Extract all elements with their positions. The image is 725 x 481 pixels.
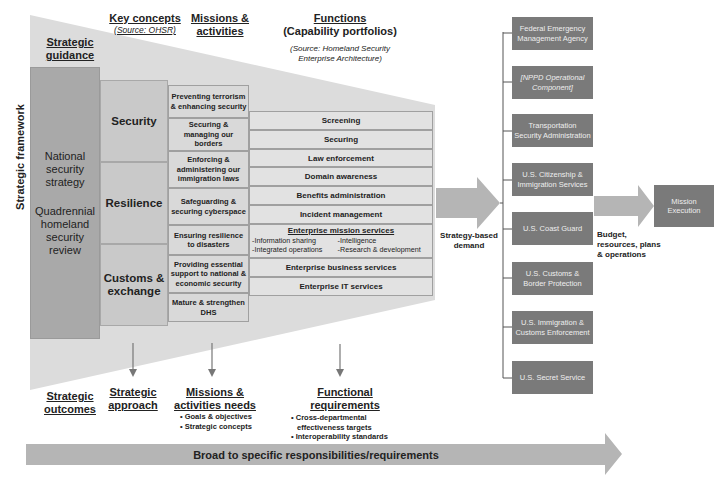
mission-item: Enforcing & administering our immigratio… [168,151,249,188]
mission-item: Ensuring resilience to disasters [168,225,249,255]
missions-needs-bullets: • Goals & objectives • Strategic concept… [180,412,270,431]
strategic-framework-label: Strategic framework [14,102,28,212]
mission-execution-box: Mission Execution [654,185,714,227]
agency-box: [NPPD Operational Component] [512,66,593,99]
key-concept-customs: Customs & exchange [100,244,168,326]
enterprise-it-services: Enterprise IT services [249,277,433,296]
function-item: Law enforcement [249,149,433,167]
missions-activities-header: Missions & activities [190,12,250,38]
agency-box: U.S. Secret Service [512,361,593,394]
mission-item: Securing & managing our borders [168,118,249,151]
quadrennial-review: Quadrennial homeland security review [31,205,99,257]
enterprise-business-services: Enterprise business services [249,258,433,277]
functions-source: (Source: Homeland Security Enterprise Ar… [285,44,395,64]
strategic-outcomes-label: Strategic outcomes [44,390,96,416]
budget-label: Budget, resources, plans & operations [597,230,667,260]
function-item: Incident management [249,205,433,224]
ems-item: -Information sharing [252,236,334,245]
function-item: Domain awareness [249,167,433,186]
functions-header: Functions [290,12,390,25]
mission-item: Preventing terrorism & enhancing securit… [168,85,249,118]
mission-item: Safeguarding & securing cyberspace [168,188,249,225]
ems-item: -Intelligence [338,236,432,245]
function-item: Securing [249,130,433,149]
national-security-strategy: National security strategy [31,150,99,189]
mission-item: Providing essential support to national … [168,255,249,293]
function-item: Screening [249,111,433,130]
budget-arrow [594,185,654,227]
ems-item: -Research & development [338,245,432,254]
agency-box: U.S. Citizenship & Immigration Services [512,163,593,196]
missions-needs-label: Missions & activities needs [165,386,265,412]
strategic-guidance-column: National security strategy Quadrennial h… [30,67,100,339]
capability-portfolios-subheader: (Capability portfolios) [270,25,410,37]
agency-box: Federal Emergency Management Agency [512,17,593,50]
key-concepts-source: (Source: OHSR) [108,25,182,35]
key-concept-security: Security [100,80,168,162]
broad-arrow-label: Broad to specific responsibilities/requi… [26,444,606,465]
ems-item: -Integrated operations [252,245,334,254]
function-item: Benefits administration [249,186,433,205]
functional-req-bullets: • Cross-departmental effectiveness targe… [291,413,411,442]
key-concept-resilience: Resilience [100,162,168,244]
strategy-demand-label: Strategy-based demand [438,231,500,251]
strategy-demand-arrow [436,177,500,229]
mission-item: Mature & strengthen DHS [168,293,249,322]
key-concepts-header: Key concepts [108,12,182,25]
strategic-guidance-header: Strategic guidance [44,36,96,62]
agency-box: Transportation Security Administration [512,114,593,147]
enterprise-mission-services: Enterprise mission services -Information… [249,224,433,258]
functional-requirements-label: Functional requirements [300,386,390,412]
agency-box: U.S. Immigration & Customs Enforcement [512,311,593,344]
agency-box: U.S. Customs & Border Protection [512,262,593,295]
agency-box: U.S. Coast Guard [512,212,593,245]
ems-title: Enterprise mission services [288,226,394,236]
strategic-approach-label: Strategic approach [106,386,160,412]
